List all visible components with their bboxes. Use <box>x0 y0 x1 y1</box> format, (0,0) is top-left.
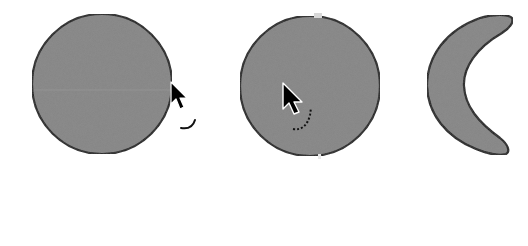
figure-stage: Three-step illustration of subtracting o… <box>0 0 528 246</box>
top-handle[interactable] <box>314 13 322 18</box>
circle-shape-1[interactable] <box>32 14 172 154</box>
figure-canvas <box>0 0 528 246</box>
bottom-handle[interactable] <box>318 154 321 159</box>
crescent-shape[interactable] <box>427 15 513 155</box>
circle-shape-2[interactable] <box>240 16 380 156</box>
step-2-group <box>240 13 380 159</box>
drag-arc-icon <box>181 120 195 128</box>
step-1-group <box>32 14 195 154</box>
arrow-cursor-icon <box>171 82 187 109</box>
step-3-group <box>427 15 513 155</box>
